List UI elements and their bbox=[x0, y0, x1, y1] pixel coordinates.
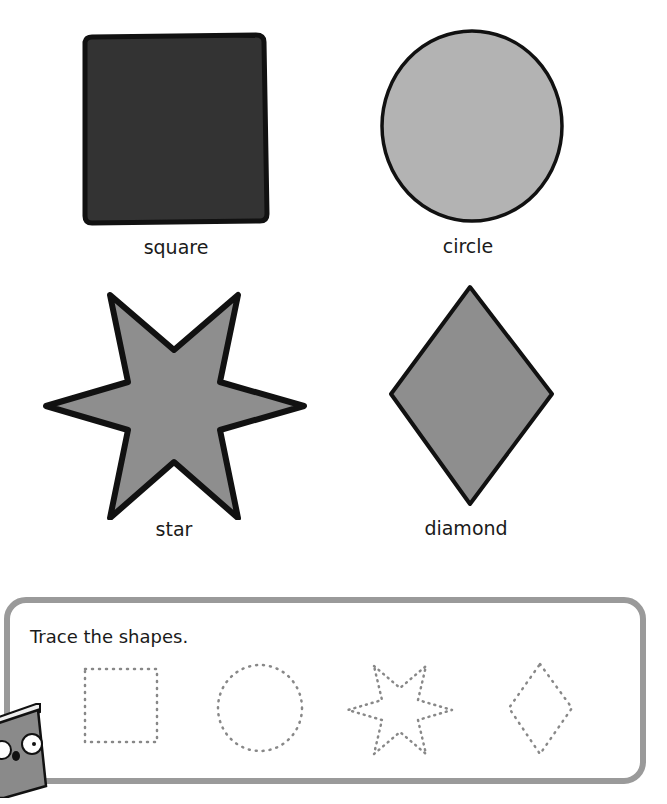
star-shape bbox=[40, 290, 310, 520]
trace-star[interactable] bbox=[342, 662, 458, 758]
circle-label: circle bbox=[368, 235, 568, 257]
trace-instruction: Trace the shapes. bbox=[30, 626, 188, 647]
trace-diamond[interactable] bbox=[504, 660, 576, 760]
square-shape bbox=[78, 32, 274, 228]
star-label: star bbox=[74, 518, 274, 540]
diamond-shape bbox=[386, 282, 556, 510]
diamond-label: diamond bbox=[366, 517, 566, 539]
trace-circle[interactable] bbox=[212, 660, 308, 758]
circle-shape bbox=[378, 26, 568, 228]
book-mascot-icon bbox=[0, 694, 52, 798]
square-label: square bbox=[76, 236, 276, 258]
trace-square[interactable] bbox=[80, 664, 164, 750]
